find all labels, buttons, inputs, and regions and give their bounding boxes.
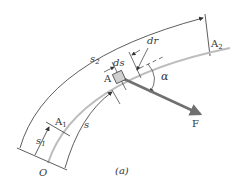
work-of-force-diagram: s2 ds dr A α A2 F A1 s1 s O (a) bbox=[0, 0, 233, 190]
arc-s-line bbox=[65, 92, 112, 168]
label-a: A bbox=[103, 73, 112, 84]
label-a1: A1 bbox=[54, 116, 67, 129]
label-f: F bbox=[192, 118, 199, 129]
s-end-tick bbox=[112, 90, 120, 104]
label-a2: A2 bbox=[210, 38, 223, 51]
alpha-arc bbox=[148, 64, 155, 92]
label-ds: ds bbox=[113, 57, 125, 68]
label-s2: s2 bbox=[90, 53, 100, 66]
label-origin: O bbox=[39, 167, 47, 178]
block-a bbox=[112, 70, 125, 83]
label-dr: dr bbox=[147, 35, 159, 46]
arc-s2-line bbox=[20, 18, 203, 148]
ds-arrow-right bbox=[132, 50, 140, 55]
label-alpha: α bbox=[161, 70, 169, 83]
figure-caption: (a) bbox=[115, 165, 129, 176]
force-arrow bbox=[122, 78, 200, 114]
a2-tick bbox=[205, 14, 210, 56]
label-s: s bbox=[84, 119, 89, 130]
